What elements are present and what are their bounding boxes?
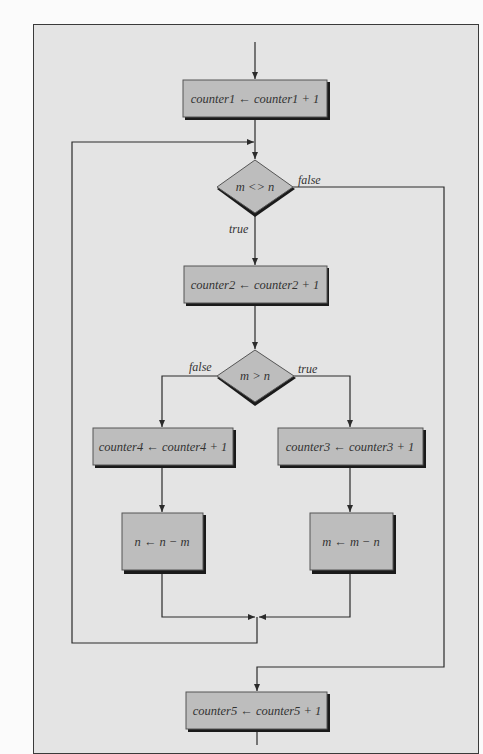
node-counter4-label: counter4 ← counter4 + 1 (99, 440, 228, 454)
node-counter1-label: counter1 ← counter1 + 1 (191, 92, 320, 106)
edge-label-decision1-false: false (298, 173, 321, 187)
node-assign-n-label: n ← n − m (135, 535, 190, 549)
edge-assign-n-merge (162, 573, 255, 617)
node-decision1: m <> n (217, 160, 295, 217)
node-assign-m: m ← m − n (310, 513, 396, 574)
node-decision2-label: m > n (240, 369, 270, 383)
edge-decision2-true (294, 376, 350, 427)
node-counter3: counter3 ← counter3 + 1 (278, 428, 426, 468)
node-decision2: m > n (217, 350, 296, 406)
node-counter2-label: counter2 ← counter2 + 1 (191, 278, 320, 292)
node-counter2: counter2 ← counter2 + 1 (184, 266, 329, 306)
node-counter5: counter5 ← counter5 + 1 (186, 692, 330, 732)
node-decision1-label: m <> n (236, 180, 274, 194)
edge-assign-m-merge (259, 573, 350, 617)
node-counter5-label: counter5 ← counter5 + 1 (193, 704, 322, 718)
node-counter4: counter4 ← counter4 + 1 (93, 428, 236, 468)
edge-label-decision1-true: true (229, 222, 249, 236)
edge-label-decision2-true: true (298, 362, 318, 376)
edge-decision2-false (162, 376, 217, 427)
node-counter3-label: counter3 ← counter3 + 1 (286, 440, 415, 454)
node-assign-n: n ← n − m (122, 513, 206, 574)
edge-label-decision2-false: false (189, 360, 212, 374)
node-counter1: counter1 ← counter1 + 1 (183, 80, 330, 120)
node-assign-m-label: m ← m − n (322, 535, 380, 549)
